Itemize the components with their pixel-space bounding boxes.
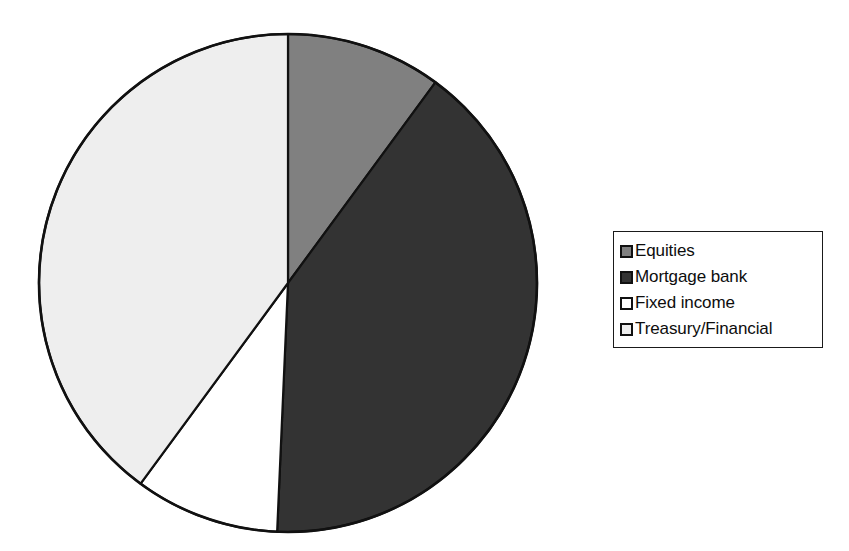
chart-legend: Equities Mortgage bank Fixed income Trea… [613,231,823,348]
pie-slice-group [39,34,537,532]
legend-item-treasury-financial[interactable]: Treasury/Financial [620,316,817,342]
pie-chart-figure: Equities Mortgage bank Fixed income Trea… [0,0,849,551]
legend-swatch-equities [620,245,633,258]
legend-item-mortgage-bank[interactable]: Mortgage bank [620,264,817,290]
legend-swatch-fixed-income [620,297,633,310]
legend-item-fixed-income[interactable]: Fixed income [620,290,817,316]
legend-label-treasury-financial: Treasury/Financial [635,316,772,342]
legend-swatch-mortgage-bank [620,271,633,284]
legend-item-equities[interactable]: Equities [620,238,817,264]
legend-swatch-treasury-financial [620,323,633,336]
legend-label-equities: Equities [635,238,695,264]
legend-label-mortgage-bank: Mortgage bank [635,264,747,290]
legend-label-fixed-income: Fixed income [635,290,735,316]
